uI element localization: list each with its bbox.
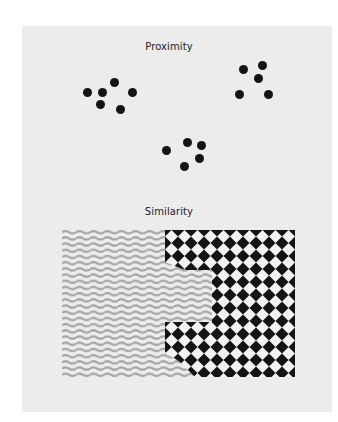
- similarity-pattern: [0, 0, 338, 422]
